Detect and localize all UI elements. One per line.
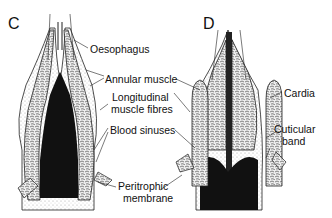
label-peritrophic-line2: membrane bbox=[123, 193, 173, 204]
label-longitudinal-line2: muscle fibres bbox=[111, 104, 173, 115]
label-blood-sinuses: Blood sinuses bbox=[110, 125, 175, 136]
label-cuticular-line2: band bbox=[282, 136, 305, 147]
label-cuticular-line1: Cuticular bbox=[274, 124, 315, 135]
label-annular-muscle: Annular muscle bbox=[105, 74, 177, 85]
panel-label-c: C bbox=[8, 16, 20, 32]
label-peritrophic-line1: Peritrophic bbox=[118, 181, 168, 192]
label-oesophagus: Oesophagus bbox=[90, 44, 150, 55]
label-cardia: Cardia bbox=[284, 88, 315, 99]
panel-d-drawing bbox=[176, 30, 286, 210]
diagram-figure: C D Oesophagus Annular muscle Longitudin… bbox=[0, 0, 332, 218]
label-longitudinal-line1: Longitudinal bbox=[112, 92, 169, 103]
panel-label-d: D bbox=[203, 16, 215, 32]
